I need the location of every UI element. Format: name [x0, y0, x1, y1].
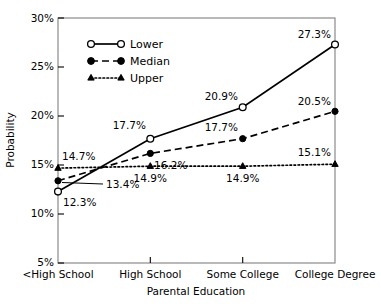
legend-marker-median-end [118, 58, 125, 65]
legend-item-lower[interactable]: Lower [88, 38, 164, 51]
series-lower-marker-2 [239, 104, 246, 111]
line-chart: 5% 10% 15% 20% 25% 30% <High School High… [0, 0, 381, 308]
series-upper-marker-1 [147, 163, 153, 169]
series-median-marker-3 [332, 108, 338, 114]
x-category-label-2: Some College [207, 268, 279, 280]
series-median-marker-1 [147, 150, 153, 156]
data-label-lower-2: 20.9% [205, 90, 238, 102]
series-lower-marker-0 [55, 188, 62, 195]
series-lower [55, 41, 339, 195]
data-label-median-1: 16.2% [154, 159, 187, 171]
chart-legend: Lower Median Upper [88, 38, 170, 85]
data-label-median-0: 13.4% [106, 178, 139, 190]
series-upper-marker-3 [332, 161, 338, 167]
data-label-lower-3: 27.3% [298, 28, 331, 40]
series-median-marker-0 [55, 178, 61, 184]
x-axis-title: Parental Education [147, 285, 246, 297]
series-median [55, 108, 338, 184]
legend-label-upper: Upper [130, 72, 164, 85]
series-upper-marker-2 [240, 163, 246, 169]
y-tick-label-15: 15% [31, 158, 54, 170]
legend-marker-lower-end [118, 41, 125, 48]
legend-label-lower: Lower [130, 38, 163, 51]
legend-item-median[interactable]: Median [88, 55, 170, 68]
x-category-label-1: High School [119, 268, 181, 280]
legend-marker-upper [88, 74, 94, 80]
series-median-marker-2 [240, 136, 246, 142]
series-lower-marker-1 [147, 135, 154, 142]
leader-line-median-0 [62, 183, 103, 185]
y-tick-label-20: 20% [31, 109, 54, 121]
data-label-upper-2: 14.9% [226, 172, 259, 184]
data-label-upper-0: 14.7% [62, 150, 95, 162]
data-label-lower-0: 12.3% [63, 196, 96, 208]
data-label-upper-3: 15.1% [298, 146, 331, 158]
x-category-label-0: <High School [22, 268, 93, 280]
y-tick-label-5: 5% [37, 256, 54, 268]
y-axis-ticks [58, 18, 64, 263]
y-tick-label-30: 30% [31, 12, 54, 24]
legend-item-upper[interactable]: Upper [88, 72, 164, 85]
data-label-lower-1: 17.7% [113, 119, 146, 131]
y-tick-label-25: 25% [31, 60, 54, 72]
x-axis-ticks [150, 257, 242, 263]
legend-label-median: Median [130, 55, 170, 68]
plot-frame [58, 18, 335, 263]
x-category-label-3: College Degree [295, 268, 376, 280]
series-lower-marker-3 [332, 41, 339, 48]
series-median-line [58, 111, 335, 181]
series-lower-line [58, 45, 335, 192]
legend-marker-lower [88, 41, 95, 48]
y-axis-title: Probability [4, 112, 16, 168]
legend-marker-median [88, 58, 95, 65]
data-label-median-2: 17.7% [205, 121, 238, 133]
data-label-median-3: 20.5% [298, 95, 331, 107]
y-tick-label-10: 10% [31, 207, 54, 219]
chart-container: 5% 10% 15% 20% 25% 30% <High School High… [0, 0, 381, 308]
